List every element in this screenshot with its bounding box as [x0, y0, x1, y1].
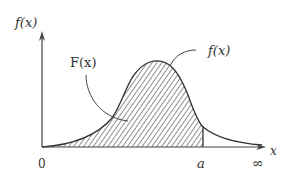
marker-label-a: a: [197, 156, 205, 171]
shaded-area-F: [42, 61, 203, 147]
x-axis-label: x: [270, 144, 277, 158]
cdf-label: F(x): [70, 55, 97, 70]
pdf-leader-line: [170, 50, 196, 66]
density-diagram: f(x) F(x) f(x) 0 a ∞ x: [0, 0, 303, 183]
curve-label: f(x): [207, 43, 230, 58]
origin-label: 0: [38, 157, 46, 171]
infinity-label: ∞: [252, 155, 264, 171]
y-axis-label: f(x): [14, 15, 37, 30]
